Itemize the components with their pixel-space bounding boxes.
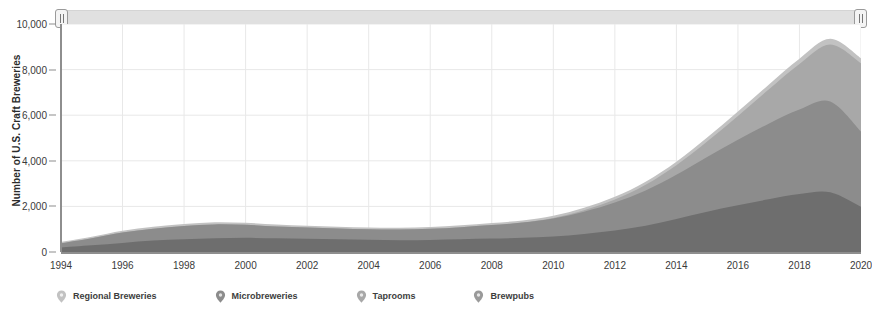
chart-legend: Regional BreweriesMicrobreweriesTaprooms… (56, 286, 592, 306)
x-tick-label: 2010 (542, 260, 564, 271)
y-tick-label: 0 (41, 247, 47, 258)
legend-label: Regional Breweries (73, 291, 157, 301)
balloon-marker-icon (473, 290, 484, 303)
x-tick-label: 2002 (296, 260, 318, 271)
x-tick-label: 2008 (481, 260, 503, 271)
balloon-marker-icon (56, 290, 67, 303)
stacked-area-plot (61, 24, 861, 252)
y-tick-mark (49, 69, 56, 70)
y-tick-label: 8,000 (22, 64, 47, 75)
legend-label: Taprooms (373, 291, 416, 301)
x-tick-label: 2006 (419, 260, 441, 271)
y-tick-mark (49, 160, 56, 161)
x-tick-label: 2012 (604, 260, 626, 271)
x-tick-label: 1994 (50, 260, 72, 271)
x-tick-label: 2000 (234, 260, 256, 271)
legend-label: Microbreweries (232, 291, 298, 301)
y-tick-label: 4,000 (22, 155, 47, 166)
plot-area[interactable] (61, 24, 861, 252)
x-tick-label: 2016 (727, 260, 749, 271)
balloon-marker-icon (356, 290, 367, 303)
y-tick-mark (49, 24, 56, 25)
legend-item[interactable]: Taprooms (356, 290, 416, 303)
y-tick-mark (49, 206, 56, 207)
y-tick-label: 2,000 (22, 201, 47, 212)
y-tick-label: 10,000 (16, 19, 47, 30)
x-tick-label: 2018 (788, 260, 810, 271)
y-tick-mark (49, 252, 56, 253)
legend-item[interactable]: Regional Breweries (56, 290, 157, 303)
area-series-group (61, 39, 861, 252)
x-tick-label: 1998 (173, 260, 195, 271)
balloon-marker-icon (215, 290, 226, 303)
slider-grip-icon (60, 14, 64, 23)
y-tick-label: 6,000 (22, 110, 47, 121)
y-tick-mark (49, 115, 56, 116)
legend-item[interactable]: Brewpubs (473, 290, 534, 303)
x-tick-label: 2004 (358, 260, 380, 271)
x-tick-label: 2014 (665, 260, 687, 271)
x-axis: 1994199619982000200220042006200820102012… (61, 254, 861, 276)
slider-grip-icon (859, 14, 863, 23)
x-tick-label: 2020 (850, 260, 872, 271)
y-axis: 02,0004,0006,0008,00010,000 (0, 24, 61, 252)
legend-item[interactable]: Microbreweries (215, 290, 298, 303)
legend-label: Brewpubs (490, 291, 534, 301)
x-tick-label: 1996 (111, 260, 133, 271)
